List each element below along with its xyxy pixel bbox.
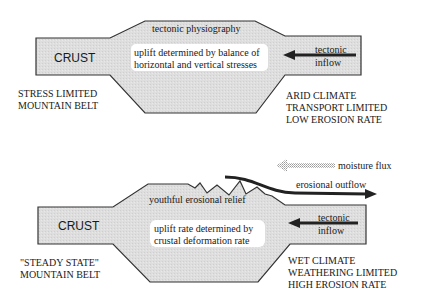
crust-label-top: CRUST bbox=[54, 51, 96, 65]
mountain-belt-diagram: CRUST tectonic physiography uplift deter… bbox=[0, 0, 429, 303]
youthful-relief-label: youthful erosional relief bbox=[149, 194, 246, 205]
belt-type-top-line2: MOUNTAIN BELT bbox=[18, 100, 98, 111]
bottom-panel: CRUST moisture flux erosional outflow yo… bbox=[20, 159, 397, 290]
uplift-text-top-line2: horizontal and vertical stresses bbox=[134, 59, 257, 70]
uplift-text-bottom-line1: uplift rate determined by bbox=[154, 223, 253, 234]
climate-top-line3: LOW EROSION RATE bbox=[286, 114, 382, 125]
erosional-outflow-label: erosional outflow bbox=[296, 179, 367, 190]
top-panel: CRUST tectonic physiography uplift deter… bbox=[18, 21, 387, 125]
belt-type-bottom-line1: "STEADY STATE" bbox=[20, 257, 99, 268]
moisture-flux-label: moisture flux bbox=[338, 160, 392, 171]
climate-top-line2: TRANSPORT LIMITED bbox=[286, 102, 387, 113]
tectonic-inflow-label-top-line2: inflow bbox=[315, 57, 342, 68]
climate-bottom-line2: WEATHERING LIMITED bbox=[288, 267, 397, 278]
tectonic-inflow-label-bottom-line2: inflow bbox=[318, 225, 345, 236]
uplift-text-top-line1: uplift determined by balance of bbox=[134, 47, 260, 58]
climate-top-line1: ARID CLIMATE bbox=[286, 90, 356, 101]
physiography-label: tectonic physiography bbox=[152, 23, 241, 34]
belt-type-top-line1: STRESS LIMITED bbox=[18, 88, 97, 99]
tectonic-inflow-label-bottom-line1: tectonic bbox=[318, 212, 350, 223]
crust-label-bottom: CRUST bbox=[58, 219, 100, 233]
uplift-text-bottom-line2: crustal deformation rate bbox=[154, 235, 250, 246]
tectonic-inflow-label-top-line1: tectonic bbox=[315, 44, 347, 55]
climate-bottom-line3: HIGH EROSION RATE bbox=[288, 279, 386, 290]
belt-type-bottom-line2: MOUNTAIN BELT bbox=[20, 269, 100, 280]
moisture-flux-arrow bbox=[276, 159, 335, 172]
climate-bottom-line1: WET CLIMATE bbox=[288, 255, 355, 266]
